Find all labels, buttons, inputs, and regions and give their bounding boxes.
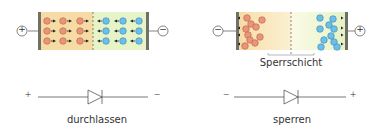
reverse-left-terminal-sign: − bbox=[214, 24, 222, 34]
contact-right bbox=[345, 12, 348, 50]
depletion-layer-label: Sperrschicht bbox=[260, 57, 322, 68]
forward-diode-minus: − bbox=[154, 90, 161, 99]
reverse-diode-plus: + bbox=[350, 90, 357, 99]
contact-left bbox=[38, 12, 41, 50]
reverse-caption: sperren bbox=[273, 114, 311, 125]
forward-right-terminal-sign: − bbox=[159, 24, 167, 34]
reverse-right-terminal-sign: + bbox=[356, 24, 364, 34]
diode-forward bbox=[38, 90, 148, 104]
diode-reverse bbox=[234, 90, 346, 104]
reverse-diode-minus: − bbox=[223, 90, 230, 99]
reverse-bias-junction bbox=[213, 12, 365, 56]
forward-diode-plus: + bbox=[25, 90, 32, 99]
holes bbox=[44, 18, 89, 45]
forward-left-terminal-sign: + bbox=[18, 24, 26, 34]
contact-right bbox=[146, 12, 149, 50]
electrons bbox=[97, 18, 142, 45]
forward-bias-junction bbox=[17, 12, 168, 50]
forward-caption: durchlassen bbox=[67, 114, 127, 125]
